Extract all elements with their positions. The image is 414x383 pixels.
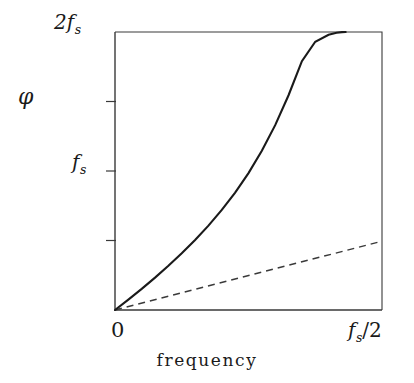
x-tick-label-zero: 0 <box>111 320 124 341</box>
y-tick-label-2fs-sub: s <box>74 22 81 37</box>
y-axis-label: φ <box>18 86 33 108</box>
y-tick-label-2fs-main: 2f <box>54 10 74 34</box>
axis-top-right <box>115 32 382 310</box>
y-tick-label-fs: fs <box>72 152 86 176</box>
figure-canvas: φ 2fs fs 0 fs/2 frequency <box>0 0 414 383</box>
x-tick-label-fs-tail: /2 <box>362 318 381 342</box>
y-tick-label-fs-sub: s <box>79 162 86 177</box>
x-axis-title: frequency <box>0 352 414 369</box>
x-tick-label-fs-over-2: fs/2 <box>348 320 382 344</box>
y-tick-label-2fs: 2fs <box>54 12 81 36</box>
phase-response-curve <box>115 32 346 310</box>
linear-phase-reference-line <box>115 241 382 310</box>
axis-frame <box>115 32 382 310</box>
axis-left-bottom <box>115 32 382 310</box>
